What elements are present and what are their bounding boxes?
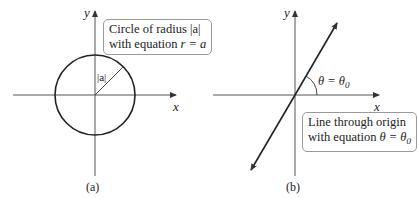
callout-b-line2: with equation θ = θ0 bbox=[308, 130, 411, 149]
callout-a-equation: r = a bbox=[181, 37, 207, 51]
callout-box-b: Line through origin with equation θ = θ0 bbox=[302, 112, 417, 152]
callout-a-line1: Circle of radius |a| bbox=[109, 22, 206, 37]
callout-a-line2: with equation r = a bbox=[109, 37, 206, 52]
angle-arc bbox=[306, 76, 317, 95]
angle-label: θ = θ0 bbox=[318, 75, 349, 90]
callout-a-line2-text: with equation bbox=[109, 37, 181, 51]
callout-b-line2-text: with equation bbox=[308, 130, 380, 144]
x-axis-label-a: x bbox=[173, 100, 179, 113]
caption-a: (a) bbox=[86, 181, 99, 193]
y-axis-label-a: y bbox=[84, 6, 90, 19]
y-axis-label-b: y bbox=[284, 6, 290, 19]
callout-box-a: Circle of radius |a| with equation r = a bbox=[103, 19, 212, 55]
line-theta-equals-theta0-lower bbox=[251, 95, 295, 170]
angle-label-subscript: 0 bbox=[345, 80, 350, 90]
callout-b-equation: θ = θ bbox=[380, 130, 407, 144]
callout-b-subscript: 0 bbox=[406, 136, 411, 146]
callout-b-line1: Line through origin bbox=[308, 115, 411, 130]
radius-label: |a| bbox=[97, 72, 106, 83]
angle-label-text: θ = θ bbox=[318, 74, 345, 88]
caption-b: (b) bbox=[286, 181, 300, 193]
